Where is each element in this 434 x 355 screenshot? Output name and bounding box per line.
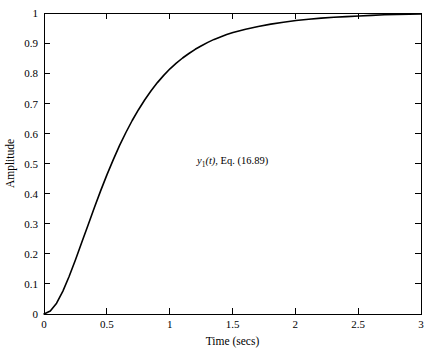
x-tick-label: 1.5	[226, 318, 240, 330]
x-tick-labels: 0 0.5 1 1.5 2 2.5 3	[41, 318, 424, 330]
x-tick-label: 0.5	[100, 318, 114, 330]
curve-annotation-label: y1(t), Eq. (16.89)	[196, 155, 269, 169]
x-tick-label: 2.5	[351, 318, 365, 330]
y-axis-ticks	[44, 13, 50, 314]
y-tick-label: 0.9	[24, 37, 38, 49]
y-tick-label: 0.4	[24, 188, 38, 200]
y-tick-label: 0.2	[24, 248, 38, 260]
x-tick-label: 0	[41, 318, 47, 330]
x-tick-label: 2	[293, 318, 299, 330]
figure-container: 0 0.5 1 1.5 2 2.5 3 0 0.1 0.2 0.3 0.4 0.…	[0, 0, 434, 355]
x-axis-ticks	[44, 308, 421, 314]
y-axis-ticks-right	[415, 43, 421, 284]
y-tick-label: 0.5	[24, 158, 38, 170]
y-tick-label: 0.7	[24, 98, 38, 110]
annotation-argument: (t)	[205, 155, 215, 167]
y-tick-label: 0.3	[24, 218, 38, 230]
y-axis-title: Amplitude	[4, 139, 17, 188]
x-tick-label: 3	[418, 318, 424, 330]
annotation-equation-ref: , Eq. (16.89)	[215, 155, 268, 167]
x-axis-title: Time (secs)	[206, 335, 260, 348]
y-tick-label: 1	[33, 7, 39, 19]
y-tick-labels: 0 0.1 0.2 0.3 0.4 0.5 0.6 0.7 0.8 0.9 1	[24, 7, 38, 320]
y-tick-label: 0	[33, 308, 39, 320]
y-tick-label: 0.1	[24, 278, 38, 290]
x-tick-label: 1	[167, 318, 173, 330]
step-response-chart: 0 0.5 1 1.5 2 2.5 3 0 0.1 0.2 0.3 0.4 0.…	[0, 0, 434, 355]
y-tick-label: 0.8	[24, 67, 38, 79]
y-tick-label: 0.6	[24, 128, 38, 140]
